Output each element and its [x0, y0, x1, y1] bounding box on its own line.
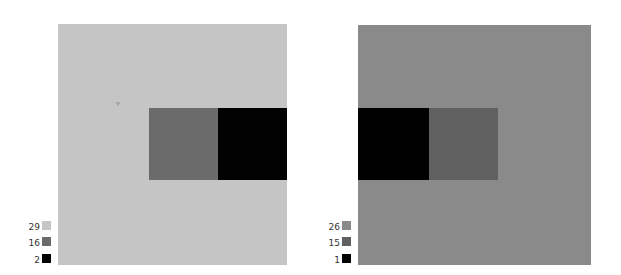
legend-label: 1 [320, 255, 340, 265]
left-legend-item-3: 2 [20, 254, 52, 264]
right-legend-item-1: 26 [320, 221, 352, 231]
legend-swatch [342, 254, 351, 263]
legend-swatch [42, 237, 51, 246]
legend-swatch [42, 254, 51, 263]
legend-swatch [42, 221, 51, 230]
legend-label: 26 [320, 222, 340, 232]
legend-label: 29 [20, 222, 40, 232]
legend-label: 2 [20, 255, 40, 265]
fixation-marker-icon [115, 102, 121, 106]
legend-swatch [342, 237, 351, 246]
legend-label: 16 [20, 238, 40, 248]
left-panel-black-rect [218, 108, 287, 180]
right-panel-black-rect [358, 108, 429, 180]
left-legend-item-1: 29 [20, 221, 52, 231]
right-panel-grey-rect [429, 108, 498, 180]
right-legend-item-3: 1 [320, 254, 352, 264]
legend-label: 15 [320, 238, 340, 248]
right-legend-item-2: 15 [320, 237, 352, 247]
legend-swatch [342, 221, 351, 230]
left-legend-item-2: 16 [20, 237, 52, 247]
left-panel-grey-rect [149, 108, 218, 180]
